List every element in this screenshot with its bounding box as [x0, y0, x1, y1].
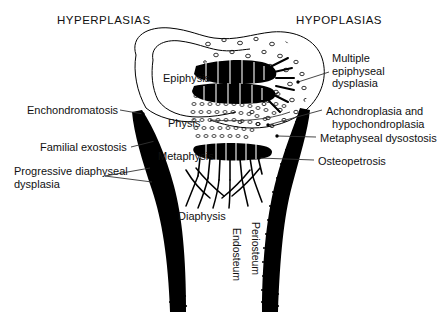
callout-familial-exostosis: Familial exostosis — [40, 141, 127, 154]
right-cortex — [261, 108, 310, 312]
label-diaphysis: Diaphysis — [178, 210, 226, 223]
callout-enchondromatosis: Enchondromatosis — [27, 104, 118, 117]
label-endosteum: Endosteum — [231, 228, 243, 281]
callout-multiple-epiphyseal-dysplasia: Multiple epiphyseal dysplasia — [332, 52, 385, 90]
heading-hyperplasias: HYPERPLASIAS — [57, 14, 151, 26]
label-metaphysis: Metaphysis — [158, 150, 214, 163]
callout-osteopetrosis: Osteopetrosis — [318, 155, 386, 168]
label-periosteum: Periosteum — [250, 222, 262, 275]
ossification-bands — [192, 58, 294, 112]
label-epiphysis: Epiphysis — [163, 72, 210, 85]
label-physis: Physis — [168, 117, 200, 130]
callout-progressive-diaphyseal-dysplasia: Progressive diaphyseal dysplasia — [14, 165, 128, 190]
heading-hypoplasias: HYPOPLASIAS — [296, 14, 382, 26]
callout-achondroplasia-hypochondroplasia: Achondroplasia and hypochondroplasia — [326, 105, 424, 130]
callout-metaphyseal-dysostosis: Metaphyseal dysostosis — [320, 132, 437, 145]
bone-diagram: HYPERPLASIAS HYPOPLASIAS Epiphysis Physi… — [0, 0, 443, 323]
